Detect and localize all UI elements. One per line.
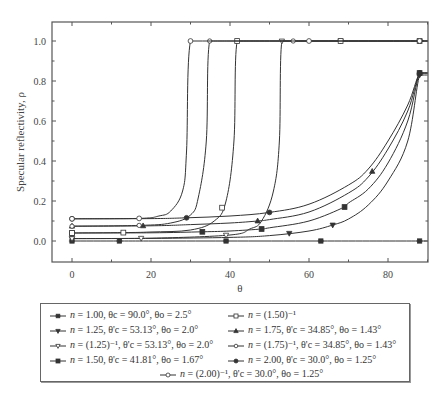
series-line	[70, 71, 428, 222]
legend-marker-icon	[227, 342, 245, 350]
legend-item: n = 1.50, θ'c = 41.81°, θo = 1.67°	[49, 353, 203, 367]
y-axis-title: Specular reflectivity, ρ	[14, 92, 26, 192]
series-layer	[69, 39, 428, 244]
legend-item: n = (1.25)⁻¹, θ'c = 53.13°, θo = 2.0°	[49, 338, 213, 352]
series-line	[69, 239, 428, 243]
legend-item: n = (2.00)⁻¹, θ'c = 30.0°, θo = 1.25°	[159, 367, 323, 381]
legend-label: = 1.00, θc = 90.0°, θo = 2.5°	[75, 309, 191, 320]
legend-item: n = 1.25, θ'c = 53.13°, θo = 2.0°	[49, 323, 198, 337]
legend-label: = (2.00)⁻¹, θ'c = 30.0°, θo = 1.25°	[185, 368, 323, 379]
x-tick-label: 0	[70, 269, 75, 280]
legend-label: = 1.50, θ'c = 41.81°, θo = 1.67°	[75, 354, 203, 365]
x-tick-label: 60	[304, 269, 314, 280]
legend-label: = (1.75)⁻¹, θ'c = 34.85°, θo = 1.43°	[253, 339, 396, 350]
y-tick-label: 0.6	[34, 116, 47, 127]
y-tick-label: 0.8	[34, 76, 47, 87]
legend-item: n = 1.00, θc = 90.0°, θo = 2.5°	[49, 308, 191, 322]
legend-label: = 1.25, θ'c = 53.13°, θo = 2.0°	[75, 324, 198, 335]
legend-marker-icon	[49, 342, 67, 350]
legend-label: = (1.50)⁻¹	[253, 309, 296, 320]
series-line	[69, 73, 427, 241]
y-tick-label: 0.2	[34, 196, 47, 207]
legend-item: n = (1.75)⁻¹, θ'c = 34.85°, θo = 1.43°	[227, 338, 396, 352]
legend-item: n = 2.00, θ'c = 30.0°, θo = 1.25°	[227, 353, 376, 367]
legend-label: = 1.75, θ'c = 34.85°, θo = 1.43°	[253, 324, 381, 335]
legend-marker-icon	[49, 357, 67, 365]
y-tick-label: 0.0	[34, 236, 47, 247]
legend-marker-icon	[227, 357, 245, 365]
x-tick-label: 80	[383, 269, 393, 280]
series-line	[70, 39, 428, 236]
x-tick-label: 20	[146, 269, 156, 280]
reflectivity-chart: 0204060800.00.20.40.60.81.0 θ Specular r…	[0, 0, 442, 300]
x-tick-label: 40	[225, 269, 235, 280]
legend-marker-icon	[159, 371, 177, 379]
series-line	[69, 39, 427, 241]
y-tick-label: 0.4	[34, 156, 47, 167]
legend-marker-icon	[227, 312, 245, 320]
legend-label: = (1.25)⁻¹, θ'c = 53.13°, θo = 2.0°	[75, 339, 213, 350]
series-line	[70, 71, 428, 236]
legend-item: n = (1.50)⁻¹	[227, 308, 296, 322]
legend: n = 1.00, θc = 90.0°, θo = 2.5°n = (1.50…	[40, 303, 410, 382]
legend-item: n = 1.75, θ'c = 34.85°, θo = 1.43°	[227, 323, 381, 337]
y-tick-label: 1.0	[34, 36, 47, 47]
series-line	[70, 39, 428, 222]
legend-marker-icon	[227, 327, 245, 335]
legend-label: = 2.00, θ'c = 30.0°, θo = 1.25°	[253, 354, 376, 365]
legend-marker-icon	[49, 312, 67, 320]
legend-marker-icon	[49, 327, 67, 335]
series-line	[69, 70, 427, 228]
x-axis-title: θ	[237, 282, 242, 294]
